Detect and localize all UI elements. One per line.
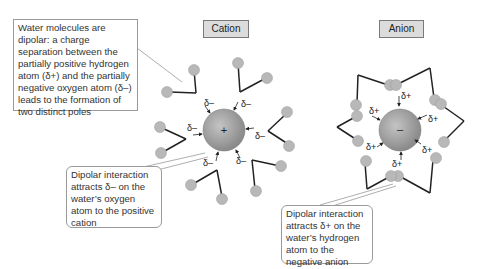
svg-text:δ–: δ– — [255, 131, 265, 141]
anion-symbol: – — [397, 123, 404, 135]
svg-text:δ–: δ– — [236, 156, 246, 166]
svg-text:δ–: δ– — [187, 123, 197, 133]
cation-label: Cation — [203, 20, 249, 38]
intro-callout: Water molecules are dipolar: a charge se… — [13, 19, 138, 111]
anion-cluster: – δ+ δ+ δ+ δ+ δ+ δ+ — [337, 68, 464, 193]
svg-text:δ+: δ+ — [422, 145, 432, 155]
svg-text:δ+: δ+ — [392, 159, 402, 169]
anion-callout: Dipolar interaction attracts δ+ on the w… — [281, 205, 373, 264]
anion-label: Anion — [379, 20, 424, 38]
svg-text:δ–: δ– — [203, 158, 213, 168]
cation-callout: Dipolar interaction attracts δ– on the w… — [66, 166, 162, 228]
svg-text:δ–: δ– — [241, 99, 251, 109]
svg-text:δ+: δ+ — [401, 91, 411, 101]
svg-text:δ+: δ+ — [369, 106, 379, 116]
svg-text:δ+: δ+ — [428, 114, 438, 124]
svg-text:δ+: δ+ — [366, 142, 376, 152]
cation-cluster: + δ– δ– δ– δ– δ– δ– — [155, 58, 295, 205]
cation-symbol: + — [221, 124, 227, 136]
